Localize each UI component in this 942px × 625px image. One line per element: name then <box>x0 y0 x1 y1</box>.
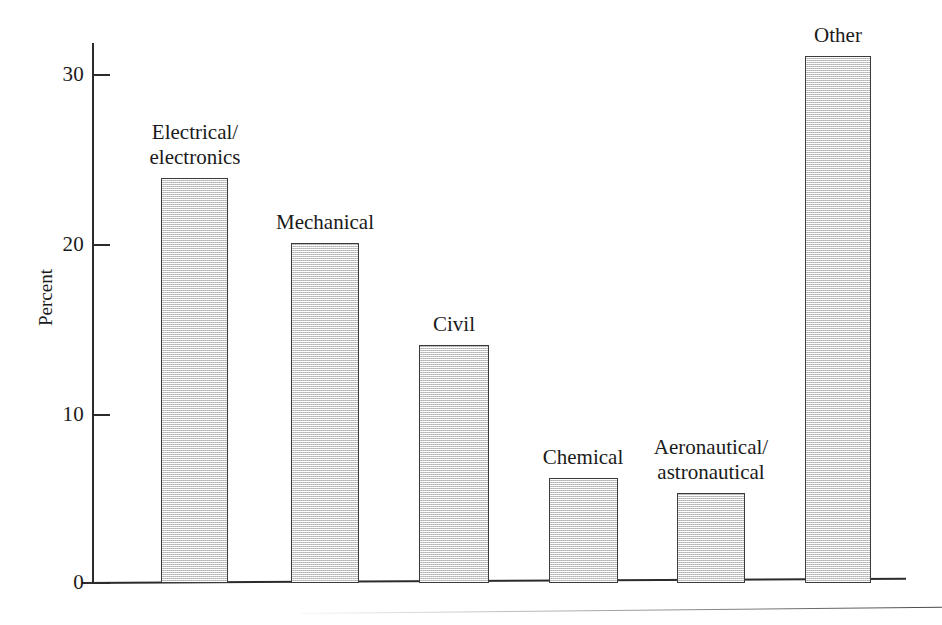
bar-civil <box>419 345 489 583</box>
bar-chart: 30 20 10 0 Percent Electrical/ electroni… <box>0 0 942 625</box>
y-tick-30 <box>93 74 110 76</box>
y-tick-10 <box>93 414 110 416</box>
y-tick-label-10: 10 <box>62 404 84 425</box>
bar-label-civil: Civil <box>379 312 529 337</box>
y-tick-0 <box>93 582 110 584</box>
bar-label-aeronautical-astronautical: Aeronautical/ astronautical <box>636 435 786 485</box>
bar-aeronautical-astronautical <box>677 493 745 583</box>
page-edge-line <box>300 607 942 614</box>
y-tick-label-0: 0 <box>73 572 84 593</box>
y-tick-label-20: 20 <box>62 234 84 255</box>
y-tick-20 <box>93 244 110 246</box>
bar-chemical <box>549 478 618 583</box>
bar-label-electrical-electronics: Electrical/ electronics <box>120 120 270 170</box>
y-tick-label-30: 30 <box>62 64 84 85</box>
bar-electrical-electronics <box>161 178 228 583</box>
bar-label-mechanical: Mechanical <box>250 210 400 235</box>
bar-other <box>805 56 871 583</box>
y-axis-line <box>92 43 94 584</box>
bar-label-other: Other <box>763 23 913 48</box>
y-axis-title: Percent <box>36 248 55 348</box>
bar-mechanical <box>291 243 359 583</box>
